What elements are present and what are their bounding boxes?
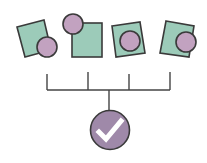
item-1 [17, 20, 57, 57]
item-3 [112, 22, 145, 57]
circle-shape [120, 31, 140, 51]
circle-shape [176, 32, 196, 52]
bracket-connector [47, 72, 170, 110]
check-circle [91, 111, 130, 150]
circle-shape [37, 37, 57, 57]
result-check [91, 111, 130, 150]
convergence-diagram [0, 0, 207, 163]
item-4 [160, 21, 196, 57]
item-2 [63, 14, 102, 57]
circle-shape [63, 14, 83, 34]
